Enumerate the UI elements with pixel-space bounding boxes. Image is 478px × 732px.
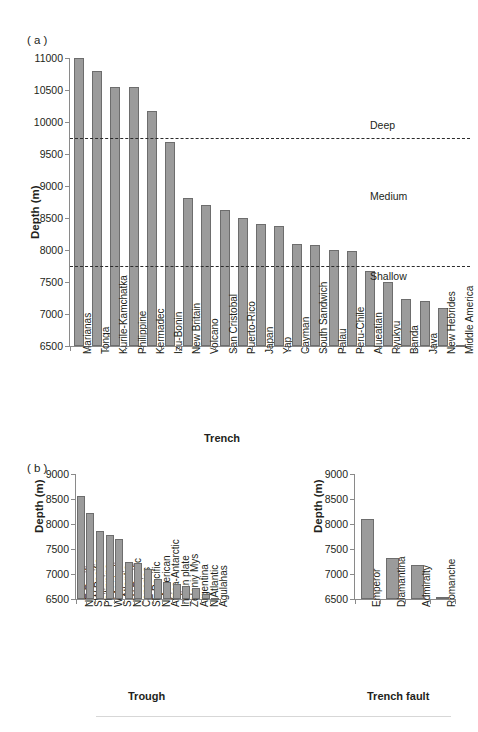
trenches-y-tick-label: 10000: [8, 117, 63, 127]
trenches-y-tick: [65, 122, 69, 123]
trenches-x-tick: [288, 347, 289, 351]
panel-a-plot-area: 6500700075008000850090009500100001050011…: [70, 58, 470, 346]
bar: [129, 87, 139, 346]
trench-faults-y-tick: [350, 499, 354, 500]
troughs-y-tick-label: 9000: [14, 469, 69, 479]
reference-line: [70, 266, 470, 267]
trench-faults-y-tick-label: 9000: [293, 469, 348, 479]
trenches-y-tick: [65, 282, 69, 283]
trenches-x-tick: [125, 347, 126, 351]
troughs-y-tick: [71, 524, 75, 525]
troughs-x-tick: [124, 600, 125, 604]
troughs-x-tick: [172, 600, 173, 604]
trench-faults-x-tick: [430, 600, 431, 604]
troughs-x-tick: [95, 600, 96, 604]
troughs-y-tick: [71, 474, 75, 475]
panel-b-trough-plot-area: 650070007500800085009000NE PacificSW Pac…: [76, 474, 220, 599]
trenches-y-tick-label: 6500: [8, 341, 63, 351]
trenches-x-tick: [270, 347, 271, 351]
troughs-x-tick: [153, 600, 154, 604]
trenches-y-tick-label: 11000: [8, 53, 63, 63]
trench-faults-x-tick: [355, 600, 356, 604]
panel-b-fault-plot-area: 650070007500800085009000EmperorDiamantin…: [355, 474, 455, 599]
trenches-y-tick-label: 10500: [8, 85, 63, 95]
trench-faults-x-tick: [380, 600, 381, 604]
trenches-y-tick-label: 8500: [8, 213, 63, 223]
trenches-x-tick: [415, 347, 416, 351]
zone-label-deep: Deep: [370, 119, 395, 131]
bar: [74, 58, 84, 346]
trenches-y-tick: [65, 250, 69, 251]
troughs-x-tick: [220, 600, 221, 604]
troughs-y-tick-label: 7000: [14, 569, 69, 579]
troughs-x-tick: [201, 600, 202, 604]
trenches-x-tick: [325, 347, 326, 351]
troughs-x-tick: [182, 600, 183, 604]
trenches-x-tick: [397, 347, 398, 351]
panel-b-trough-x-axis-title: Trough: [128, 690, 165, 702]
troughs-x-tick: [86, 600, 87, 604]
trenches-x-tick: [179, 347, 180, 351]
panel-a-tag: ( a ): [27, 34, 47, 46]
trenches-x-tick: [361, 347, 362, 351]
trench-faults-x-tick: [405, 600, 406, 604]
zone-label-shallow: Shallow: [370, 270, 407, 282]
trenches-y-tick: [65, 90, 69, 91]
troughs-x-tick: [114, 600, 115, 604]
trenches-x-tick: [143, 347, 144, 351]
troughs-y-tick-label: 8500: [14, 494, 69, 504]
troughs-y-tick: [71, 499, 75, 500]
x-category-label: Middle America: [465, 286, 475, 354]
trenches-x-tick: [88, 347, 89, 351]
troughs-y-tick-label: 7500: [14, 544, 69, 554]
trenches-y-tick-label: 7500: [8, 277, 63, 287]
trench-faults-y-tick: [350, 549, 354, 550]
trenches-x-tick: [161, 347, 162, 351]
reference-line: [70, 138, 470, 139]
trench-faults-y-tick: [350, 474, 354, 475]
trenches-x-tick: [234, 347, 235, 351]
trenches-x-tick: [434, 347, 435, 351]
trenches-y-tick-label: 8000: [8, 245, 63, 255]
trenches-x-tick: [215, 347, 216, 351]
troughs-y-tick-label: 8000: [14, 519, 69, 529]
footer-rule: [96, 716, 451, 717]
troughs-x-tick: [105, 600, 106, 604]
trenches-y-tick: [65, 218, 69, 219]
trenches-x-tick: [470, 347, 471, 351]
troughs-x-tick: [143, 600, 144, 604]
troughs-y-tick-label: 6500: [14, 594, 69, 604]
trench-faults-y-tick-label: 7500: [293, 544, 348, 554]
zone-label-medium: Medium: [370, 190, 407, 202]
trenches-y-axis: [69, 58, 70, 346]
trenches-x-tick: [343, 347, 344, 351]
trenches-y-tick-label: 9000: [8, 181, 63, 191]
troughs-y-tick: [71, 599, 75, 600]
panel-a-x-axis-title: Trench: [204, 432, 240, 444]
trench-faults-y-tick-label: 8000: [293, 519, 348, 529]
trenches-y-tick: [65, 58, 69, 59]
trenches-y-tick: [65, 186, 69, 187]
trench-faults-y-tick-label: 7000: [293, 569, 348, 579]
trenches-x-tick: [306, 347, 307, 351]
trenches-x-tick: [379, 347, 380, 351]
trench-faults-y-tick-label: 8500: [293, 494, 348, 504]
trench-faults-y-tick-label: 6500: [293, 594, 348, 604]
trenches-y-tick: [65, 346, 69, 347]
troughs-x-tick: [210, 600, 211, 604]
panel-b: ( b ) Depth (m) 650070007500800085009000…: [0, 448, 478, 732]
trenches-y-tick-label: 9500: [8, 149, 63, 159]
troughs-x-tick: [191, 600, 192, 604]
trench-faults-y-tick: [350, 574, 354, 575]
bar: [92, 71, 102, 346]
panel-a: ( a ) Depth (m) 650070007500800085009000…: [0, 0, 478, 448]
troughs-y-tick: [71, 549, 75, 550]
trenches-x-tick: [106, 347, 107, 351]
troughs-x-tick: [162, 600, 163, 604]
trenches-y-tick: [65, 154, 69, 155]
trenches-x-tick: [452, 347, 453, 351]
troughs-y-tick: [71, 574, 75, 575]
panel-b-fault-x-axis-title: Trench fault: [367, 690, 429, 702]
troughs-x-tick: [76, 600, 77, 604]
trench-faults-y-tick: [350, 599, 354, 600]
